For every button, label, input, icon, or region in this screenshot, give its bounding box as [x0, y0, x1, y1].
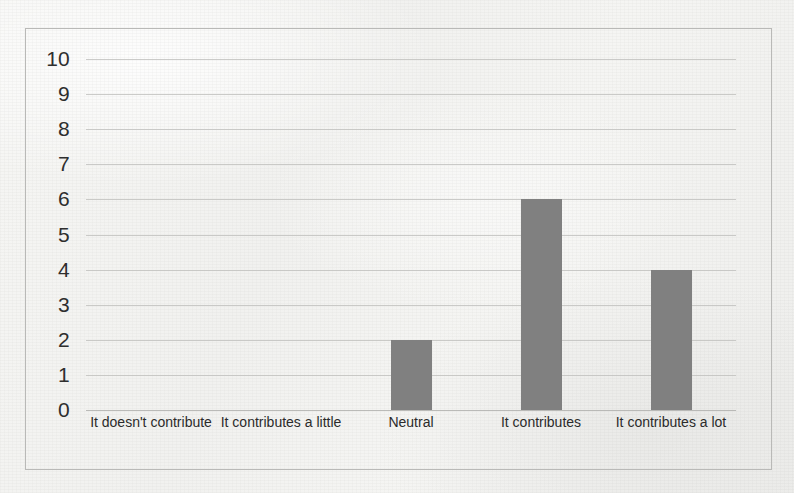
y-axis-tick-label: 1 [58, 363, 70, 387]
x-axis-category-label: It contributes a little [216, 414, 346, 431]
x-axis-category-label: It contributes a lot [606, 414, 736, 431]
y-axis-tick-label: 5 [58, 223, 70, 247]
bar [651, 270, 692, 410]
chart-frame: 109876543210 It doesn't contributeIt con… [25, 28, 772, 470]
y-axis-tick-label: 0 [58, 398, 70, 422]
bar-slot [346, 59, 476, 410]
x-axis-category-label: It doesn't contribute [86, 414, 216, 431]
bar-series [86, 59, 736, 410]
bar-slot [606, 59, 736, 410]
bar-slot [86, 59, 216, 410]
y-axis-tick-label: 10 [46, 47, 70, 71]
y-axis-tick-label: 6 [58, 187, 70, 211]
y-axis-tick-label: 4 [58, 258, 70, 282]
bar [391, 340, 432, 410]
gridline [86, 410, 736, 411]
bar-chart: 109876543210 It doesn't contributeIt con… [26, 29, 771, 469]
bar [521, 199, 562, 410]
x-axis-category-labels: It doesn't contributeIt contributes a li… [86, 414, 736, 431]
y-axis-tick-label: 2 [58, 328, 70, 352]
y-axis-tick-label: 7 [58, 152, 70, 176]
bar-slot [216, 59, 346, 410]
x-axis-category-label: Neutral [346, 414, 476, 431]
y-axis-tick-label: 3 [58, 293, 70, 317]
plot-area: 109876543210 [86, 59, 736, 410]
x-axis-category-label: It contributes [476, 414, 606, 431]
y-axis-tick-label: 9 [58, 82, 70, 106]
y-axis-tick-label: 8 [58, 117, 70, 141]
bar-slot [476, 59, 606, 410]
